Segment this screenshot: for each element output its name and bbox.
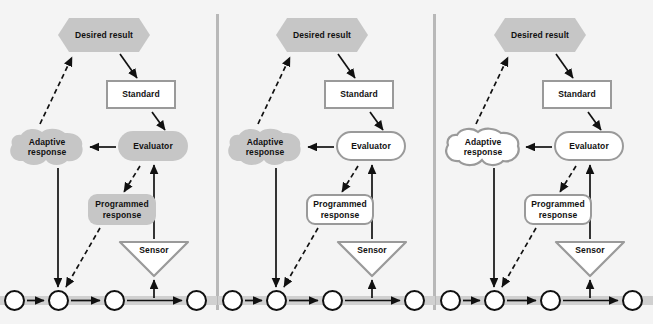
rounded-rect-shape [554, 131, 624, 161]
panel-three: Desired result Standard Adaptiveresponse… [436, 0, 653, 324]
blob-shape [9, 127, 85, 167]
rectangle-shape [324, 80, 394, 109]
belt-circle[interactable] [440, 290, 461, 311]
belt-circle[interactable] [484, 290, 505, 311]
belt-circle[interactable] [186, 290, 207, 311]
belt-circle[interactable] [540, 290, 561, 311]
rounded-rect-shape [118, 131, 188, 161]
panel-two: Desired result Standard Adaptiveresponse… [218, 0, 435, 324]
rounded-rect-shape [306, 194, 374, 225]
rectangle-shape [542, 80, 612, 109]
belt-circle[interactable] [48, 290, 69, 311]
node-standard[interactable]: Standard [542, 80, 612, 109]
rectangle-shape [106, 80, 176, 109]
rounded-rect-shape [88, 194, 156, 225]
hexagon-shape [494, 18, 586, 52]
belt-circle[interactable] [404, 290, 425, 311]
node-sensor[interactable]: Sensor [336, 240, 408, 278]
node-desired-result[interactable]: Desired result [276, 18, 368, 52]
triangle-down-shape [118, 240, 190, 278]
diagram-figure: Desired result Standard Adaptiveresponse… [0, 0, 653, 324]
belt-circle[interactable] [322, 290, 343, 311]
blob-shape [227, 127, 303, 167]
triangle-down-shape [336, 240, 408, 278]
node-evaluator[interactable]: Evaluator [554, 131, 624, 161]
belt-circle[interactable] [4, 290, 25, 311]
node-adaptive-response[interactable]: Adaptiveresponse [445, 127, 521, 167]
node-desired-result[interactable]: Desired result [494, 18, 586, 52]
node-evaluator[interactable]: Evaluator [336, 131, 406, 161]
node-standard[interactable]: Standard [324, 80, 394, 109]
node-evaluator[interactable]: Evaluator [118, 131, 188, 161]
hexagon-shape [58, 18, 150, 52]
node-standard[interactable]: Standard [106, 80, 176, 109]
node-desired-result[interactable]: Desired result [58, 18, 150, 52]
belt-circle[interactable] [104, 290, 125, 311]
node-sensor[interactable]: Sensor [118, 240, 190, 278]
belt-circle[interactable] [622, 290, 643, 311]
rounded-rect-shape [336, 131, 406, 161]
node-adaptive-response[interactable]: Adaptiveresponse [227, 127, 303, 167]
node-adaptive-response[interactable]: Adaptiveresponse [9, 127, 85, 167]
belt-circle[interactable] [266, 290, 287, 311]
rounded-rect-shape [524, 194, 592, 225]
blob-shape [445, 127, 521, 167]
triangle-down-shape [554, 240, 626, 278]
node-sensor[interactable]: Sensor [554, 240, 626, 278]
hexagon-shape [276, 18, 368, 52]
node-programmed-response[interactable]: Programmedresponse [306, 194, 374, 225]
panel-one: Desired result Standard Adaptiveresponse… [0, 0, 217, 324]
node-programmed-response[interactable]: Programmedresponse [524, 194, 592, 225]
node-programmed-response[interactable]: Programmedresponse [88, 194, 156, 225]
belt-circle[interactable] [222, 290, 243, 311]
